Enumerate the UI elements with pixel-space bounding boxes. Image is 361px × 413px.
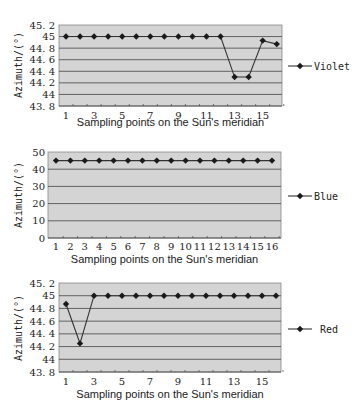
y-tick-label: 44. 4 bbox=[30, 66, 55, 77]
x-tick-label: 7 bbox=[147, 376, 153, 387]
x-tick-label: 9 bbox=[175, 376, 181, 387]
x-tick-label: 15 bbox=[251, 241, 264, 252]
x-tick-label: 1 bbox=[63, 376, 69, 387]
red-chart-svg: 43. 84444. 244. 444. 644. 84545. 2135791… bbox=[0, 270, 361, 413]
y-tick-label: 43. 8 bbox=[30, 367, 55, 378]
y-tick-label: 44 bbox=[42, 354, 55, 365]
y-tick-label: 44. 6 bbox=[30, 316, 55, 327]
legend-marker-icon bbox=[297, 63, 303, 69]
y-tick-label: 45 bbox=[42, 290, 55, 301]
legend-label: Blue bbox=[314, 191, 338, 202]
x-tick-label: 10 bbox=[179, 241, 192, 252]
x-tick-label: 1 bbox=[53, 241, 59, 252]
x-tick-label: 5 bbox=[110, 241, 116, 252]
y-tick-label: 40 bbox=[32, 164, 45, 175]
y-tick-label: 45 bbox=[42, 31, 55, 42]
legend-label: Red bbox=[320, 324, 338, 335]
x-tick-label: 16 bbox=[266, 241, 279, 252]
x-tick-label: 12 bbox=[208, 241, 221, 252]
legend: Violet bbox=[288, 61, 350, 72]
y-tick-label: 45. 2 bbox=[30, 278, 55, 289]
x-tick-label: 13 bbox=[228, 376, 241, 387]
violet-chart-svg: 43. 84444. 244. 444. 644. 84545. 2135791… bbox=[0, 0, 361, 130]
x-tick-label: 3 bbox=[82, 241, 88, 252]
y-tick-label: 10 bbox=[32, 215, 45, 226]
y-tick-label: 44. 2 bbox=[30, 341, 55, 352]
y-tick-label: 43. 8 bbox=[30, 101, 55, 112]
plot-area bbox=[48, 152, 281, 238]
legend: Blue bbox=[288, 191, 338, 202]
x-tick-label: 11 bbox=[194, 241, 207, 252]
y-tick-label: 30 bbox=[32, 181, 45, 192]
x-tick-label: 6 bbox=[125, 241, 131, 252]
y-axis-label: Azimuth/(°) bbox=[13, 32, 24, 98]
x-tick-label: 11 bbox=[200, 376, 213, 387]
y-axis-label: Azimuth/(°) bbox=[13, 162, 24, 228]
x-tick-label: 13 bbox=[222, 241, 235, 252]
legend-marker-icon bbox=[297, 326, 303, 332]
y-tick-label: 44. 8 bbox=[30, 43, 55, 54]
y-tick-label: 0 bbox=[39, 233, 45, 244]
y-tick-label: 44 bbox=[42, 89, 55, 100]
y-tick-label: 45. 2 bbox=[30, 20, 55, 31]
blue-chart: 0102030405012345678910111213141516Azimut… bbox=[0, 130, 361, 270]
violet-chart: 43. 84444. 244. 444. 644. 84545. 2135791… bbox=[0, 0, 361, 130]
x-axis-label: Sampling points on the Sun's meridian bbox=[71, 253, 258, 265]
x-axis-label: Sampling points on the Sun's meridian bbox=[76, 388, 263, 400]
blue-chart-svg: 0102030405012345678910111213141516Azimut… bbox=[0, 130, 361, 270]
x-tick-label: 9 bbox=[168, 241, 174, 252]
legend: Red bbox=[288, 324, 338, 335]
x-tick-label: 7 bbox=[139, 241, 145, 252]
x-axis-label: Sampling points on the Sun's meridian bbox=[77, 116, 264, 128]
x-tick-label: 8 bbox=[154, 241, 160, 252]
x-tick-label: 1 bbox=[63, 110, 69, 121]
y-tick-label: 20 bbox=[32, 198, 45, 209]
x-tick-label: 4 bbox=[96, 241, 102, 252]
x-tick-label: 3 bbox=[91, 376, 97, 387]
red-chart: 43. 84444. 244. 444. 644. 84545. 2135791… bbox=[0, 270, 361, 413]
legend-label: Violet bbox=[314, 61, 350, 72]
x-tick-label: 5 bbox=[119, 376, 125, 387]
y-axis-label: Azimuth/(°) bbox=[13, 295, 24, 361]
y-tick-label: 44. 2 bbox=[30, 77, 55, 88]
y-tick-label: 44. 6 bbox=[30, 54, 55, 65]
x-tick-label: 2 bbox=[67, 241, 73, 252]
legend-marker-icon bbox=[297, 193, 303, 199]
x-tick-label: 15 bbox=[256, 376, 269, 387]
y-tick-label: 44. 4 bbox=[30, 328, 55, 339]
x-tick-label: 14 bbox=[237, 241, 250, 252]
y-tick-label: 44. 8 bbox=[30, 303, 55, 314]
y-tick-label: 50 bbox=[32, 147, 45, 158]
